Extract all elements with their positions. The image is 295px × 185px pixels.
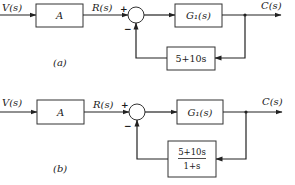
- output-label-a: C(s): [261, 0, 282, 11]
- reference-label-b: R(s): [92, 99, 114, 110]
- plus-sign-b: +: [121, 100, 129, 110]
- output-label-b: C(s): [262, 96, 283, 107]
- input-label-b: V(s): [2, 97, 22, 108]
- reference-label-a: R(s): [91, 2, 113, 13]
- caption-b: (b): [53, 163, 67, 174]
- minus-sign-b: −: [124, 121, 132, 131]
- block-diagrams: V(s) A R(s) + − G₁(s) C(s) 5+10s (a) V(s…: [0, 0, 295, 185]
- input-label-a: V(s): [2, 2, 22, 13]
- forward-block-label-b: G₁(s): [188, 107, 213, 118]
- diagram-a: V(s) A R(s) + − G₁(s) C(s) 5+10s (a): [0, 0, 282, 70]
- diagram-b: V(s) A R(s) + − G₁(s) C(s) 5+10s 1+s (b): [0, 96, 283, 177]
- feedback-numerator-b: 5+10s: [178, 147, 206, 157]
- block-a-label-a: A: [55, 10, 63, 21]
- plus-sign-a: +: [120, 4, 128, 14]
- feedback-denominator-b: 1+s: [184, 161, 201, 171]
- caption-a: (a): [53, 57, 67, 68]
- feedback-path-out-b: [137, 120, 168, 159]
- block-a-label-b: A: [56, 107, 64, 118]
- feedback-block-label-a: 5+10s: [176, 53, 207, 64]
- summing-junction-b: [129, 104, 145, 120]
- minus-sign-a: −: [124, 24, 132, 34]
- forward-block-label-a: G₁(s): [186, 10, 211, 21]
- summing-junction-a: [128, 7, 144, 23]
- feedback-path-out-a: [136, 23, 167, 58]
